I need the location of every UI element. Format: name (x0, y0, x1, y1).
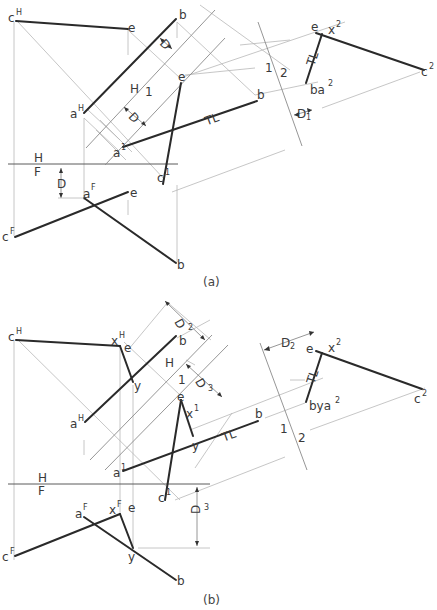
svg-text:2: 2 (336, 338, 341, 347)
svg-text:H: H (34, 151, 43, 165)
svg-text:a: a (70, 417, 77, 431)
figure-b: D 2 D 3 D 2 D 3 c H x H e b y a (2, 301, 427, 607)
svg-text:TL: TL (303, 50, 321, 69)
svg-text:c: c (157, 171, 164, 185)
svg-text:c: c (421, 65, 428, 79)
svg-text:F: F (10, 547, 15, 556)
svg-text:H: H (119, 331, 125, 340)
svg-text:2: 2 (280, 66, 288, 80)
svg-text:2: 2 (290, 342, 295, 351)
svg-text:2: 2 (328, 79, 333, 88)
svg-text:y: y (128, 550, 135, 564)
svg-text:H: H (130, 82, 139, 96)
svg-text:1: 1 (280, 422, 288, 436)
svg-text:x: x (328, 23, 335, 37)
svg-text:ba: ba (310, 83, 325, 97)
svg-text:1: 1 (265, 61, 273, 75)
svg-text:e: e (306, 342, 313, 356)
svg-text:1: 1 (306, 113, 311, 122)
svg-text:H: H (16, 8, 22, 17)
svg-text:b: b (177, 258, 185, 272)
svg-text:b: b (179, 8, 187, 22)
svg-text:b: b (177, 574, 185, 588)
svg-text:F: F (91, 183, 96, 192)
svg-text:e: e (177, 390, 184, 404)
descriptive-geometry-figure: D D D D 1 c H e b a H H 1 e b (0, 0, 437, 610)
dim-d2-right: D (281, 336, 290, 350)
svg-text:1: 1 (121, 143, 126, 152)
svg-text:c: c (2, 550, 9, 564)
svg-text:e: e (128, 501, 135, 515)
svg-text:TL: TL (202, 110, 221, 128)
svg-text:F: F (38, 484, 45, 498)
svg-text:b: b (257, 88, 265, 102)
svg-text:b: b (255, 407, 263, 421)
svg-text:e: e (124, 341, 131, 355)
svg-text:y: y (134, 379, 141, 393)
dim-d2-top: D (171, 316, 188, 331)
svg-text:1: 1 (178, 373, 186, 387)
dim-d3-mid: D (192, 376, 209, 391)
svg-text:e: e (311, 20, 318, 34)
projectors-a (14, 5, 420, 262)
svg-text:2: 2 (335, 396, 340, 405)
svg-text:F: F (10, 227, 15, 236)
svg-text:F: F (117, 500, 122, 509)
svg-text:2: 2 (298, 431, 306, 445)
svg-text:a: a (70, 107, 77, 121)
svg-text:c: c (2, 230, 9, 244)
svg-text:2: 2 (336, 20, 341, 29)
svg-text:e: e (178, 70, 185, 84)
caption-b: (b) (203, 593, 220, 607)
svg-text:e: e (130, 186, 137, 200)
svg-text:bya: bya (309, 399, 331, 413)
labels-a: c H e b a H H 1 e b a 1 c 1 TL H F a F e… (2, 8, 434, 272)
svg-text:TL: TL (303, 368, 321, 387)
svg-text:x: x (328, 341, 335, 355)
svg-text:3: 3 (204, 503, 209, 512)
svg-text:c: c (8, 330, 15, 344)
caption-a: (a) (203, 275, 220, 289)
svg-text:x: x (186, 407, 193, 421)
svg-text:2: 2 (429, 62, 434, 71)
svg-text:a: a (113, 466, 120, 480)
dim-d1-top: D (157, 36, 173, 52)
svg-text:x: x (109, 503, 116, 517)
svg-text:1: 1 (194, 404, 199, 413)
svg-text:a: a (113, 146, 120, 160)
svg-text:3: 3 (208, 384, 213, 393)
labels-b: c H x H e b y a H H 1 e x 1 y b a 1 c 1 … (2, 327, 427, 588)
svg-text:c: c (414, 392, 421, 406)
svg-text:2: 2 (188, 323, 193, 332)
dim-d3-front: D (189, 505, 203, 514)
svg-text:H: H (16, 327, 22, 336)
svg-text:H: H (38, 471, 47, 485)
svg-text:c: c (158, 491, 165, 505)
svg-text:a: a (75, 507, 82, 521)
svg-text:H: H (165, 356, 174, 370)
svg-text:H: H (78, 104, 84, 113)
object-lines-a (15, 19, 424, 263)
svg-text:x: x (111, 334, 118, 348)
svg-text:a: a (83, 187, 90, 201)
svg-text:2: 2 (422, 389, 427, 398)
svg-text:1: 1 (166, 488, 171, 497)
dimensions-b: D 2 D 3 D 2 D 3 (165, 301, 314, 546)
svg-text:1: 1 (145, 85, 153, 99)
dim-d-hf: D (57, 177, 66, 191)
dim-d-mid: D (126, 110, 142, 126)
svg-text:b: b (179, 334, 187, 348)
figure-a: D D D D 1 c H e b a H H 1 e b (2, 5, 434, 289)
object-lines-b (15, 336, 422, 580)
dim-d1-12: D (297, 107, 306, 121)
svg-text:F: F (34, 165, 41, 179)
svg-text:1: 1 (121, 463, 126, 472)
svg-text:c: c (8, 11, 15, 25)
svg-text:F: F (83, 503, 88, 512)
svg-text:1: 1 (165, 168, 170, 177)
svg-text:e: e (128, 21, 135, 35)
svg-text:y: y (192, 439, 199, 453)
svg-text:H: H (78, 414, 84, 423)
